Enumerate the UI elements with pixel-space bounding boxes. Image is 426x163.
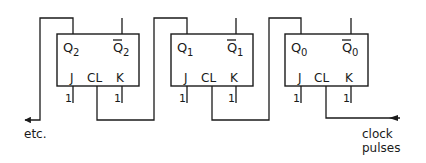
ff0-q-label: Q [291, 40, 301, 55]
ff2-q-sub: 2 [73, 47, 79, 58]
ff2-k-label: K [116, 71, 125, 85]
ff1-k-value: 1 [228, 92, 235, 105]
ff1-cl-label: CL [201, 71, 216, 85]
ff1-qbar-label: Q [227, 40, 237, 55]
ff1-qbar-sub: 1 [237, 47, 243, 58]
ff1-j-value: 1 [179, 92, 186, 105]
clock-input-arrow-icon [389, 115, 398, 121]
ff0-k-value: 1 [343, 92, 350, 105]
ff0-qbar-sub: 0 [352, 47, 358, 58]
etc-label: etc. [24, 127, 47, 141]
ff0-q-sub: 0 [301, 47, 307, 58]
ff2-qbar-sub: 2 [123, 47, 129, 58]
ff1-j-label: J [183, 71, 188, 85]
ff0-k-label: K [345, 71, 354, 85]
ff0-cl-label: CL [314, 71, 329, 85]
ripple-counter-diagram: Q 2 Q 2 J CL K 1 1 Q 1 Q 1 J CL K 1 1 Q … [0, 0, 426, 163]
ff1-q-label: Q [177, 40, 187, 55]
ff1-k-label: K [230, 71, 239, 85]
ff0-j-label: J [297, 71, 302, 85]
ff2-j-label: J [69, 71, 74, 85]
clock-label-line1: clock [362, 127, 393, 141]
clock-input-wire [326, 86, 400, 118]
flipflop-2: Q 2 Q 2 J CL K 1 1 [57, 18, 139, 105]
ff0-j-value: 1 [293, 92, 300, 105]
ff0-qbar-label: Q [342, 40, 352, 55]
ff2-cl-label: CL [87, 71, 102, 85]
ff2-qbar-label: Q [113, 40, 123, 55]
ff2-q-label: Q [63, 40, 73, 55]
ff1-q-sub: 1 [187, 47, 193, 58]
ff2-k-value: 1 [114, 92, 121, 105]
ff2-j-value: 1 [65, 92, 72, 105]
clock-label-line2: pulses [362, 141, 400, 155]
